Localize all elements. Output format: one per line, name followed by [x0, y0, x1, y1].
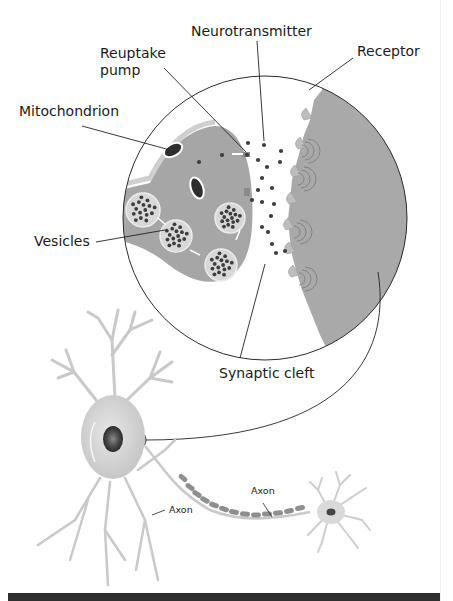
- myelin-segment: [262, 511, 272, 516]
- neurotransmitter-dot: [260, 176, 264, 180]
- label-vesicles: Vesicles: [34, 233, 90, 249]
- myelin-segment: [273, 510, 283, 516]
- label-synaptic-cleft: Synaptic cleft: [219, 365, 314, 381]
- dendrites-upper: [52, 310, 172, 405]
- neurotransmitter-dot: [220, 153, 224, 157]
- vesicle: [215, 203, 245, 233]
- neurotransmitter-dot: [270, 242, 274, 246]
- neurotransmitter-dot: [246, 141, 250, 145]
- neurotransmitter-dot: [262, 143, 266, 147]
- label-axon-middle: Axon: [251, 485, 275, 496]
- neurotransmitter-dot: [245, 153, 249, 157]
- myelin-segment: [284, 508, 295, 515]
- neurotransmitter-dot: [265, 165, 269, 169]
- myelin-segment: [251, 512, 261, 517]
- label-neurotransmitter: Neurotransmitter: [191, 23, 312, 39]
- synapse-magnified-view: [120, 60, 420, 365]
- target-nucleus: [327, 509, 336, 516]
- neurotransmitter-dot: [266, 230, 270, 234]
- myelin-sheath-segments: [178, 473, 306, 518]
- label-reuptake-pump-line1: Reuptake: [100, 45, 166, 61]
- neurotransmitter-dot: [269, 214, 273, 218]
- receptor-pointer: [309, 58, 353, 90]
- vesicle: [205, 249, 237, 281]
- synapse-diagram: Neurotransmitter Reuptake pump Receptor …: [0, 0, 453, 601]
- neurotransmitter-dot: [260, 200, 264, 204]
- neurotransmitter-dot: [260, 225, 264, 229]
- myelin-segment: [229, 509, 240, 516]
- myelin-segment: [208, 501, 219, 509]
- label-mitochondrion: Mitochondrion: [19, 103, 119, 119]
- diagram-canvas: [0, 0, 453, 601]
- label-receptor: Receptor: [357, 43, 420, 59]
- neurotransmitter-dot: [279, 149, 283, 153]
- myelin-segment: [178, 473, 189, 483]
- nucleus: [103, 426, 123, 452]
- myelin-segment: [295, 505, 306, 512]
- neurotransmitter-dot: [270, 186, 274, 190]
- neurotransmitter-dot: [197, 160, 201, 164]
- neurotransmitter-dot: [256, 188, 260, 192]
- neurotransmitter-dot: [274, 251, 278, 255]
- neurotransmitter-dot: [278, 160, 282, 164]
- label-axon-left: Axon: [169, 504, 193, 515]
- neurotransmitter-dot: [250, 198, 254, 202]
- page-edge-line: [440, 0, 441, 601]
- neurotransmitter-dot: [272, 202, 276, 206]
- axon-left-pointer: [152, 510, 165, 515]
- bottom-bar: [8, 593, 440, 601]
- vesicle: [126, 193, 160, 227]
- neurotransmitter-dot: [256, 158, 260, 162]
- neurotransmitter-dot: [283, 249, 287, 253]
- label-reuptake-pump-line2: pump: [100, 62, 140, 78]
- myelin-segment: [240, 511, 250, 517]
- myelin-segment: [218, 505, 229, 513]
